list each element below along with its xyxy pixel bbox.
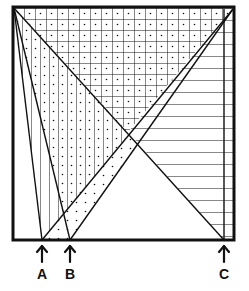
diagram <box>0 0 249 291</box>
arrow-up-icon-c <box>219 246 229 262</box>
point-label-a: A <box>34 266 50 282</box>
arrow-up-icon-a <box>37 246 47 262</box>
point-label-c: C <box>216 266 232 282</box>
arrow-up-icon-b <box>65 246 75 262</box>
point-label-b: B <box>62 266 78 282</box>
